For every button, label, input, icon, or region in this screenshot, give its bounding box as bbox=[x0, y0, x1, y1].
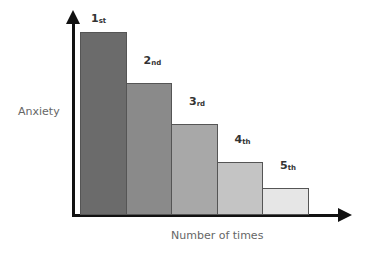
x-axis-label: Number of times bbox=[171, 229, 263, 242]
bar-label-3rd: 3rd bbox=[189, 95, 205, 108]
x-axis-arrow-icon bbox=[338, 208, 352, 222]
y-axis-label: Anxiety bbox=[18, 105, 60, 118]
bar-label-4th: 4th bbox=[235, 133, 251, 146]
bar-5th bbox=[262, 188, 309, 215]
bar-label-1st: 1st bbox=[91, 12, 106, 25]
bar-1st bbox=[80, 32, 127, 215]
bar-3rd bbox=[171, 124, 218, 216]
bar-label-5th: 5th bbox=[280, 159, 296, 172]
bar-4th bbox=[217, 162, 264, 215]
bar-label-2nd: 2nd bbox=[144, 54, 162, 67]
y-axis-line bbox=[72, 22, 75, 217]
y-axis-arrow-icon bbox=[66, 10, 80, 24]
bar-2nd bbox=[126, 83, 173, 215]
